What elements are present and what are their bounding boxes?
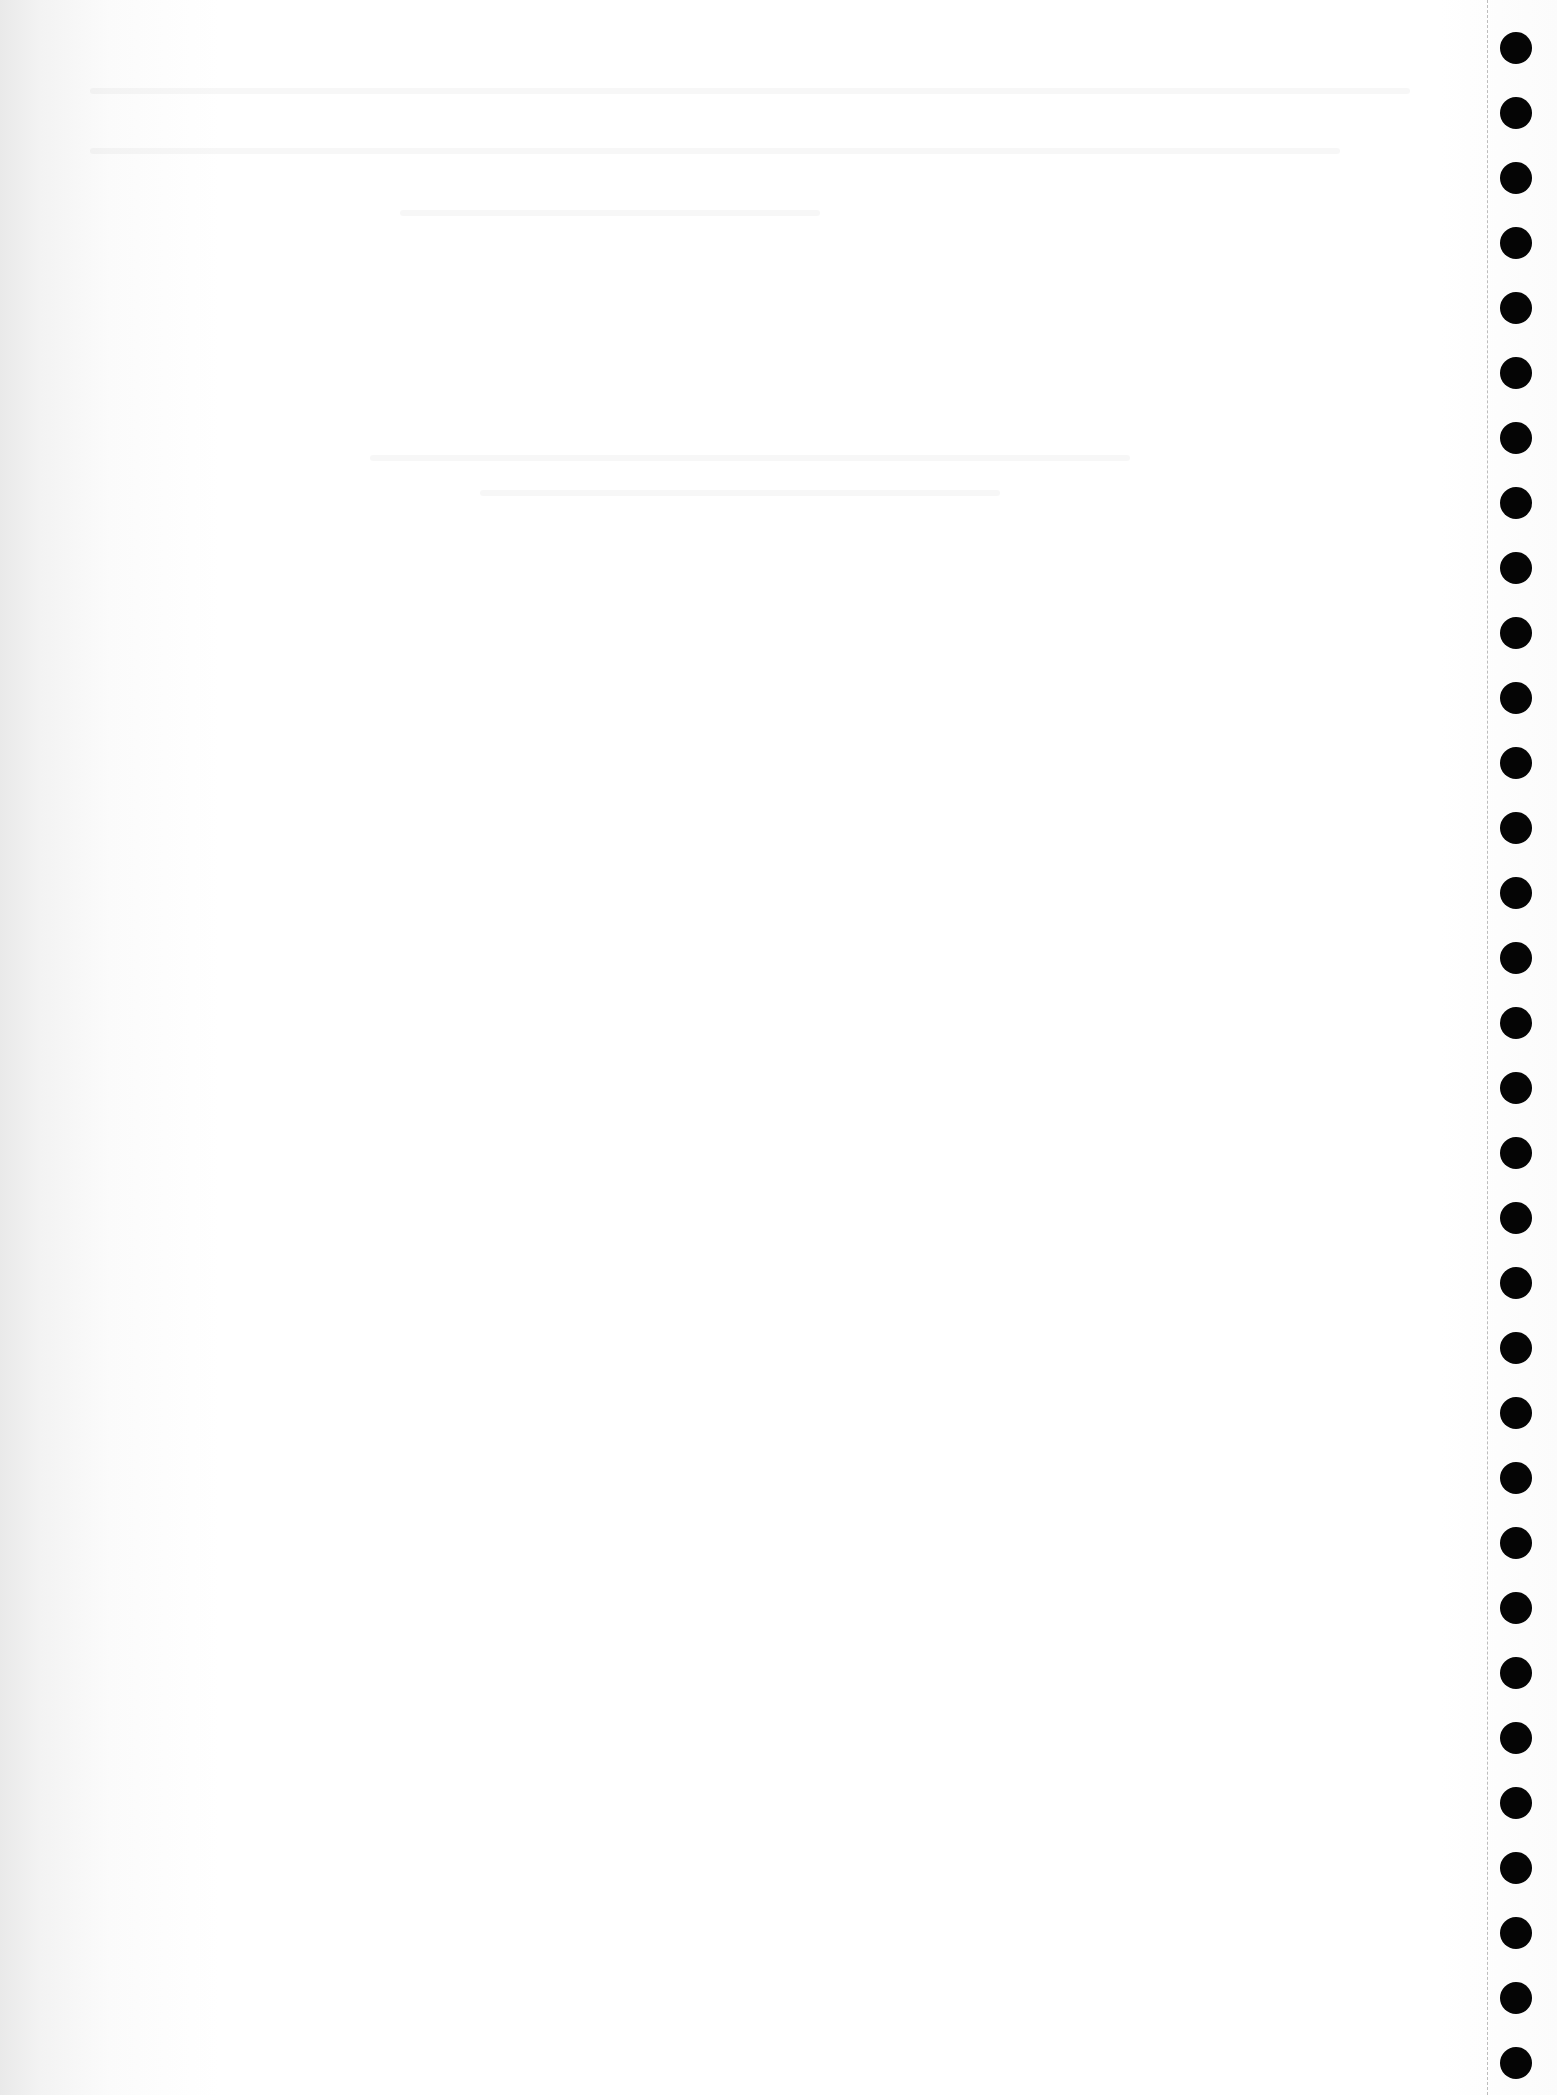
sprocket-hole: [1500, 162, 1532, 194]
sprocket-hole: [1500, 2047, 1532, 2079]
sprocket-hole: [1500, 812, 1532, 844]
sprocket-hole: [1500, 1267, 1532, 1299]
sprocket-hole: [1500, 1202, 1532, 1234]
tractor-feed-strip: [1488, 0, 1557, 2095]
sprocket-hole: [1500, 1852, 1532, 1884]
sprocket-hole: [1500, 292, 1532, 324]
sprocket-hole: [1500, 1462, 1532, 1494]
sprocket-hole: [1500, 1137, 1532, 1169]
sprocket-hole: [1500, 1332, 1532, 1364]
sprocket-hole: [1500, 1722, 1532, 1754]
bleed-through-mark: [90, 148, 1340, 154]
sprocket-hole: [1500, 1527, 1532, 1559]
paper-sheet: [0, 0, 1557, 2095]
sprocket-hole: [1500, 617, 1532, 649]
sprocket-hole: [1500, 1007, 1532, 1039]
sprocket-hole: [1500, 747, 1532, 779]
sprocket-hole: [1500, 1397, 1532, 1429]
sprocket-hole: [1500, 682, 1532, 714]
sprocket-hole: [1500, 1787, 1532, 1819]
sprocket-hole: [1500, 1592, 1532, 1624]
sprocket-hole: [1500, 227, 1532, 259]
sprocket-hole: [1500, 1917, 1532, 1949]
bleed-through-mark: [400, 210, 820, 216]
sprocket-hole: [1500, 357, 1532, 389]
sprocket-hole: [1500, 1657, 1532, 1689]
sprocket-hole: [1500, 97, 1532, 129]
sprocket-hole: [1500, 1072, 1532, 1104]
sprocket-hole: [1500, 487, 1532, 519]
bleed-through-mark: [370, 455, 1130, 461]
sprocket-hole: [1500, 422, 1532, 454]
sprocket-hole: [1500, 877, 1532, 909]
sprocket-hole: [1500, 32, 1532, 64]
bleed-through-mark: [90, 88, 1410, 94]
bleed-through-mark: [480, 490, 1000, 496]
sprocket-hole: [1500, 1982, 1532, 2014]
sprocket-hole: [1500, 942, 1532, 974]
sprocket-hole: [1500, 552, 1532, 584]
